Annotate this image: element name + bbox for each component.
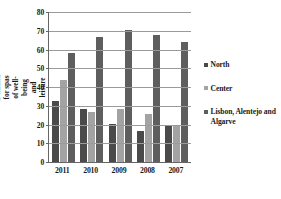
bar	[80, 109, 87, 162]
legend-item[interactable]: Center	[204, 84, 280, 94]
bar	[117, 109, 124, 162]
bar	[68, 53, 75, 162]
bar	[137, 131, 144, 162]
legend-swatch-icon	[204, 86, 208, 90]
legend-item[interactable]: Lisbon, Alentejo and Algarve	[204, 107, 280, 126]
legend-item[interactable]: North	[204, 60, 280, 70]
y-axis-title: % Demand for spas of well-being and leis…	[2, 0, 28, 175]
x-tick-label: 2008	[133, 166, 161, 175]
gridline	[49, 12, 191, 13]
legend-swatch-icon	[204, 63, 208, 67]
y-tick-mark	[46, 106, 49, 107]
gridline	[49, 50, 191, 51]
y-tick-mark	[46, 50, 49, 51]
y-tick-label: 10	[37, 139, 44, 148]
y-tick-label: 70	[37, 26, 44, 35]
legend-label: Lisbon, Alentejo and Algarve	[211, 107, 281, 126]
x-tick-label: 2010	[76, 166, 104, 175]
y-tick-label: 40	[37, 83, 44, 92]
y-tick-label: 0	[40, 158, 44, 167]
legend-label: Center	[211, 84, 233, 94]
y-tick-mark	[46, 31, 49, 32]
x-axis-labels: 20112010200920082007	[48, 166, 190, 175]
gridline	[49, 87, 191, 88]
y-tick-label: 80	[37, 8, 44, 17]
y-tick-label: 20	[37, 120, 44, 129]
legend-label: North	[211, 60, 230, 70]
y-tick-label: 60	[37, 45, 44, 54]
x-tick-label: 2007	[162, 166, 190, 175]
y-tick-mark	[46, 87, 49, 88]
bar	[88, 112, 95, 162]
chart-legend: NorthCenterLisbon, Alentejo and Algarve	[204, 60, 280, 140]
y-tick-mark	[46, 68, 49, 69]
gridline	[49, 125, 191, 126]
x-tick-label: 2011	[48, 166, 76, 175]
y-tick-label: 30	[37, 101, 44, 110]
bar	[60, 80, 67, 163]
gridline	[49, 68, 191, 69]
gridline	[49, 31, 191, 32]
y-axis-ticks: 01020304050607080	[28, 12, 46, 162]
bar	[52, 101, 59, 162]
gridline	[49, 143, 191, 144]
x-tick-label: 2009	[105, 166, 133, 175]
y-tick-mark	[46, 12, 49, 13]
plot-area: 01020304050607080	[28, 12, 190, 180]
y-tick-mark	[46, 125, 49, 126]
legend-swatch-icon	[204, 110, 208, 114]
y-tick-label: 50	[37, 64, 44, 73]
y-tick-mark	[46, 162, 49, 163]
bar	[145, 114, 152, 162]
bar-chart: % Demand for spas of well-being and leis…	[0, 0, 280, 199]
y-tick-mark	[46, 143, 49, 144]
plot-canvas	[48, 12, 191, 163]
gridline	[49, 106, 191, 107]
